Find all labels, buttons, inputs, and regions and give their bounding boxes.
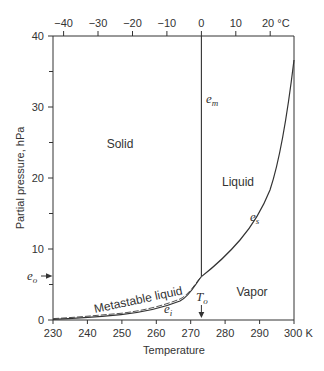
saturation-liquid-curve — [201, 60, 294, 277]
svg-text:eo: eo — [27, 268, 38, 285]
svg-text:10: 10 — [32, 243, 44, 255]
em-label: em — [206, 91, 219, 108]
svg-text:260: 260 — [147, 327, 165, 339]
x-axis-title: Temperature — [143, 344, 205, 356]
vapor-region-label: Vapor — [236, 285, 267, 299]
svg-text:300 K: 300 K — [284, 327, 313, 339]
top-axis-tick-labels: −40 −30 −20 −10 0 10 20 °C — [54, 17, 289, 29]
svg-text:10: 10 — [230, 17, 242, 29]
x-axis-tick-labels: 230 240 250 260 270 280 290 300 K — [44, 327, 314, 339]
eo-annotation: eo — [27, 268, 53, 285]
svg-text:To: To — [196, 289, 208, 306]
svg-text:280: 280 — [216, 327, 234, 339]
svg-text:270: 270 — [182, 327, 200, 339]
x-axis-ticks — [53, 320, 294, 324]
svg-text:290: 290 — [250, 327, 268, 339]
phase-diagram-chart: 230 240 250 260 270 280 290 300 K Temper… — [0, 0, 324, 371]
svg-text:−30: −30 — [89, 17, 108, 29]
svg-text:0: 0 — [198, 17, 204, 29]
svg-text:240: 240 — [78, 327, 96, 339]
top-axis-ticks — [64, 31, 271, 36]
es-label: es — [250, 209, 260, 226]
svg-text:0: 0 — [38, 314, 44, 326]
solid-region-label: Solid — [107, 137, 134, 151]
svg-text:−20: −20 — [123, 17, 142, 29]
svg-text:20: 20 — [32, 172, 44, 184]
svg-text:−10: −10 — [158, 17, 177, 29]
plot-frame — [53, 36, 294, 320]
svg-text:230: 230 — [44, 327, 62, 339]
svg-text:250: 250 — [113, 327, 131, 339]
svg-text:30: 30 — [32, 101, 44, 113]
y-axis-title: Partial pressure, hPa — [14, 126, 26, 230]
svg-text:−40: −40 — [54, 17, 73, 29]
down-arrow-icon — [199, 312, 205, 318]
liquid-region-label: Liquid — [222, 175, 254, 189]
svg-text:20 °C: 20 °C — [262, 17, 290, 29]
To-annotation: To — [196, 289, 208, 318]
right-arrow-icon — [46, 273, 53, 278]
svg-text:40: 40 — [32, 30, 44, 42]
